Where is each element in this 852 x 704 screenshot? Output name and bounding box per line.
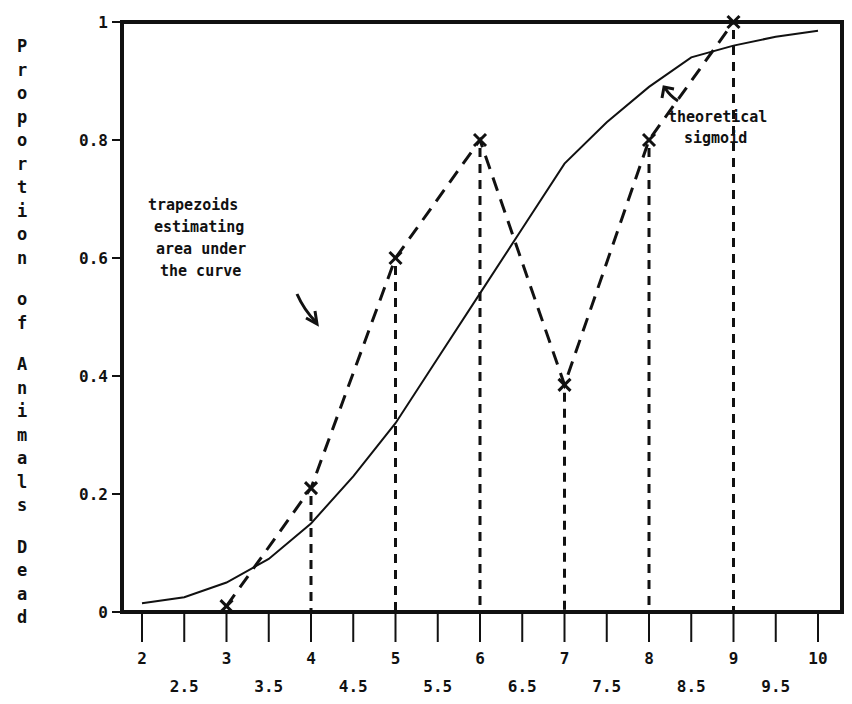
y-label-letter: A	[17, 354, 27, 374]
y-label-letter: e	[17, 560, 27, 580]
annotation-trapezoids-text: area under	[156, 240, 246, 258]
y-label-letter: l	[17, 472, 27, 492]
x-tick-label-major: 7	[560, 649, 570, 668]
y-tick-label: 1	[98, 13, 108, 32]
y-label-letter: p	[17, 107, 27, 127]
y-label-letter: t	[17, 177, 27, 197]
x-tick-label-major: 6	[475, 649, 485, 668]
annotation-sigmoid-text: theoretical	[668, 108, 767, 126]
annotations: trapezoidsestimatingarea underthe curvet…	[148, 87, 767, 324]
y-label-letter: f	[17, 313, 27, 333]
annotation-trapezoids-text: the curve	[160, 262, 241, 280]
x-tick-label-major: 8	[644, 649, 654, 668]
chart: ProportionofAnimalsDead 00.20.40.60.81 2…	[0, 0, 852, 704]
x-tick-label-minor: 3.5	[254, 677, 283, 696]
x-tick-label-minor: 5.5	[423, 677, 452, 696]
x-tick-label-minor: 8.5	[677, 677, 706, 696]
x-tick-label-major: 2	[137, 649, 147, 668]
x-marker	[390, 252, 402, 264]
y-label-letter: i	[17, 401, 27, 421]
x-tick-label-major: 9	[729, 649, 739, 668]
annotation-trapezoids-text: estimating	[154, 218, 244, 236]
x-tick-label-minor: 9.5	[761, 677, 790, 696]
y-label-letter: m	[17, 425, 27, 445]
y-tick-label: 0.2	[79, 485, 108, 504]
x-tick-label-major: 5	[391, 649, 401, 668]
x-tick-label-minor: 2.5	[170, 677, 199, 696]
x-tick-label-minor: 4.5	[339, 677, 368, 696]
x-tick-label-major: 10	[808, 649, 827, 668]
y-label-letter: s	[17, 495, 27, 515]
annotation-sigmoid-text: sigmoid	[684, 129, 747, 147]
y-label-letter: d	[17, 607, 27, 627]
y-tick-label: 0	[98, 603, 108, 622]
annotation-trapezoids-text: trapezoids	[148, 196, 238, 214]
y-label-letter: o	[17, 224, 27, 244]
y-tick-label: 0.6	[79, 249, 108, 268]
y-label-letter: P	[17, 36, 27, 56]
y-label-letter: n	[17, 248, 27, 268]
y-label-letter: o	[17, 130, 27, 150]
y-label-letter: a	[17, 448, 27, 468]
y-label-letter: r	[17, 60, 27, 80]
y-axis-label: ProportionofAnimalsDead	[17, 36, 27, 627]
y-tick-label: 0.8	[79, 131, 108, 150]
x-tick-label-minor: 6.5	[508, 677, 537, 696]
x-axis-ticks: 23456789102.53.54.55.56.57.58.59.5	[137, 612, 827, 696]
y-label-letter: n	[17, 378, 27, 398]
y-label-letter: o	[17, 289, 27, 309]
y-label-letter: r	[17, 154, 27, 174]
y-label-letter: i	[17, 201, 27, 221]
x-marker	[643, 134, 655, 146]
y-label-letter: a	[17, 584, 27, 604]
y-tick-label: 0.4	[79, 367, 108, 386]
x-tick-label-major: 3	[222, 649, 232, 668]
y-label-letter: o	[17, 83, 27, 103]
x-tick-label-minor: 7.5	[592, 677, 621, 696]
y-axis-ticks: 00.20.40.60.81	[79, 13, 122, 622]
x-tick-label-major: 4	[306, 649, 316, 668]
y-label-letter: D	[17, 537, 27, 557]
